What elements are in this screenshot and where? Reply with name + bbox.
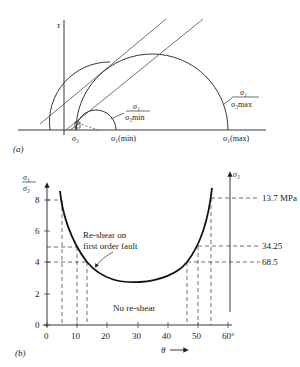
mohr-diagram: τ σ₃ σ₁(min) σ₁(max) σ₁ σ₃min σ₁ (13, 19, 266, 154)
sigma3-label: σ₃ (72, 134, 79, 143)
ratio-max-label: σ₁ σ₃max (224, 88, 259, 109)
svg-text:2: 2 (35, 289, 40, 299)
left-envelope-arc (49, 62, 110, 130)
theta-label: θ (161, 345, 166, 355)
tau-label: τ (57, 20, 61, 30)
sigma3-tick-34-25: 34.25 (262, 241, 283, 251)
svg-text:0: 0 (44, 331, 49, 341)
sigma3-tick-13-7: 13.7 MPa (262, 193, 297, 203)
y-axis-label-den: σ₃ (23, 184, 30, 193)
svg-text:σ₁: σ₁ (240, 88, 247, 97)
pole-line (70, 124, 79, 130)
svg-text:σ₃max: σ₃max (231, 100, 252, 109)
svg-text:30: 30 (132, 331, 142, 341)
large-mohr-circle (76, 54, 228, 130)
svg-text:0: 0 (35, 320, 40, 330)
sigma1-min-label: σ₁(min) (111, 134, 136, 143)
svg-text:σ₃min: σ₃min (125, 113, 145, 122)
sigma1-max-label: σ₁(max) (223, 134, 250, 143)
dotted-radius (78, 123, 98, 130)
ratio-chart: σ₁ σ₃ σ₃ 0 2 4 6 8 0 10 20 30 40 50 60° … (15, 170, 297, 358)
sigma3-tick-68-5: 68.5 (262, 257, 278, 267)
right-axis-label: σ₃ (233, 170, 240, 179)
reshear-label-1: Re-shear on (83, 230, 127, 240)
svg-text:40: 40 (162, 331, 172, 341)
y-axis-label-num: σ₁ (23, 173, 30, 182)
failure-envelope (40, 19, 166, 124)
svg-text:20: 20 (101, 331, 111, 341)
figure: τ σ₃ σ₁(min) σ₁(max) σ₁ σ₃min σ₁ (0, 0, 300, 367)
no-reshear-label: No re-shear (113, 303, 155, 313)
panel-b-label: (b) (15, 348, 26, 358)
ref-line-5 (47, 246, 260, 325)
reshear-arrow (96, 252, 113, 266)
svg-text:50: 50 (192, 331, 202, 341)
small-mohr-circle (76, 110, 116, 130)
svg-text:60°: 60° (222, 331, 235, 341)
panel-a-label: (a) (13, 144, 24, 154)
svg-text:σ₁: σ₁ (133, 102, 140, 111)
ref-line-4 (47, 262, 260, 325)
svg-text:4: 4 (35, 257, 40, 267)
svg-text:8: 8 (35, 195, 40, 205)
ratio-min-label: σ₁ σ₃min (111, 102, 150, 122)
y-ticks: 0 2 4 6 8 (35, 195, 50, 330)
reshear-label-2: first order fault (83, 241, 138, 251)
svg-text:10: 10 (71, 331, 81, 341)
svg-text:6: 6 (35, 226, 40, 236)
